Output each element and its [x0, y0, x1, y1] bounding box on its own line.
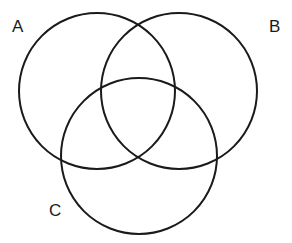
venn-circles-canvas: [0, 0, 292, 243]
set-label-c: C: [49, 202, 61, 219]
circle-set-b: [101, 13, 257, 169]
set-label-a: A: [12, 18, 23, 35]
venn-diagram: A B C: [0, 0, 292, 243]
set-label-b: B: [269, 18, 280, 35]
